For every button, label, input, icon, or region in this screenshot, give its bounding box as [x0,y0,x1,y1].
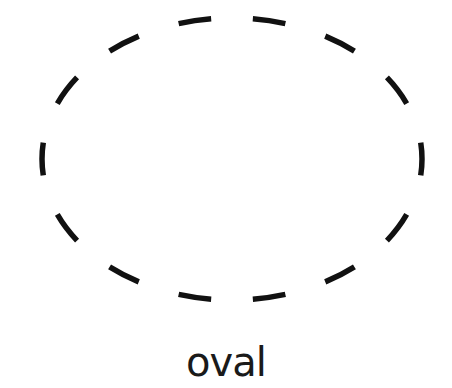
oval-outline [42,18,422,300]
dashed-oval-shape [0,0,452,388]
shape-label: oval [0,338,452,386]
